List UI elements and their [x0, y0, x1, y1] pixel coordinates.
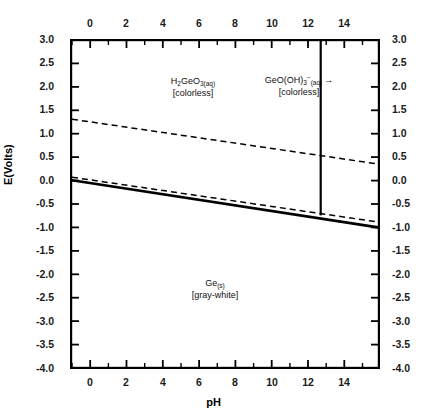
- x-tick-bottom-8: 8: [225, 377, 245, 388]
- y-tick-left-1.0: 1.0: [18, 128, 54, 139]
- x-tick-top-2: 2: [116, 18, 136, 29]
- y-tick-right--3.0: -3.0: [392, 316, 426, 327]
- y-tick-right--2.0: -2.0: [392, 269, 426, 280]
- y-tick-right-2.5: 2.5: [392, 57, 426, 68]
- y-tick-left-2.0: 2.0: [18, 81, 54, 92]
- region-label-geooh3: GeO(OH)3−(aq)→ [colorless]: [244, 74, 354, 98]
- x-tick-bottom-0: 0: [80, 377, 100, 388]
- y-tick-left-0.5: 0.5: [18, 151, 54, 162]
- y-axis-title: E(Volts): [2, 144, 14, 185]
- y-tick-left-2.5: 2.5: [18, 57, 54, 68]
- y-tick-left--1.0: -1.0: [18, 222, 54, 233]
- region-arrow-icon: →: [324, 75, 333, 85]
- x-axis-title: pH: [0, 396, 427, 408]
- y-tick-right-2.0: 2.0: [392, 81, 426, 92]
- y-tick-left-3.0: 3.0: [18, 34, 54, 45]
- x-tick-bottom-2: 2: [116, 377, 136, 388]
- x-tick-top-14: 14: [334, 18, 354, 29]
- x-tick-top-12: 12: [298, 18, 318, 29]
- y-tick-left--3.0: -3.0: [18, 316, 54, 327]
- x-tick-top-10: 10: [262, 18, 282, 29]
- y-tick-right--2.5: -2.5: [392, 292, 426, 303]
- x-tick-bottom-10: 10: [262, 377, 282, 388]
- y-tick-right--4.0: -4.0: [392, 363, 426, 374]
- x-tick-top-4: 4: [153, 18, 173, 29]
- y-tick-right-3.0: 3.0: [392, 34, 426, 45]
- y-tick-left-0.0: 0.0: [18, 175, 54, 186]
- pourbaix-diagram: E(Volts) pH: [0, 0, 427, 419]
- x-tick-top-0: 0: [80, 18, 100, 29]
- y-tick-right-0.5: 0.5: [392, 151, 426, 162]
- y-tick-left--1.5: -1.5: [18, 245, 54, 256]
- ge-formula: Ge(s): [160, 278, 270, 290]
- y-tick-right-0.0: 0.0: [392, 175, 426, 186]
- y-tick-left--3.5: -3.5: [18, 339, 54, 350]
- y-tick-left--0.5: -0.5: [18, 198, 54, 209]
- geooh3-formula: GeO(OH)3−(aq)→: [244, 74, 354, 87]
- region-label-ge-solid: Ge(s) [gray-white]: [160, 278, 270, 301]
- y-tick-left--2.5: -2.5: [18, 292, 54, 303]
- geooh3-state: [colorless]: [244, 87, 354, 98]
- y-tick-left--4.0: -4.0: [18, 363, 54, 374]
- x-tick-top-6: 6: [189, 18, 209, 29]
- ge-state: [gray-white]: [160, 290, 270, 301]
- y-tick-right-1.5: 1.5: [392, 104, 426, 115]
- y-tick-right--3.5: -3.5: [392, 339, 426, 350]
- y-tick-left--2.0: -2.0: [18, 269, 54, 280]
- y-tick-left-1.5: 1.5: [18, 104, 54, 115]
- x-tick-top-8: 8: [225, 18, 245, 29]
- x-tick-bottom-12: 12: [298, 377, 318, 388]
- y-tick-right--0.5: -0.5: [392, 198, 426, 209]
- h2geo3-state: [colorless]: [138, 88, 248, 99]
- y-tick-right--1.0: -1.0: [392, 222, 426, 233]
- region-label-h2geo3: H2GeO3(aq) [colorless]: [138, 76, 248, 99]
- x-tick-bottom-4: 4: [153, 377, 173, 388]
- y-tick-right--1.5: -1.5: [392, 245, 426, 256]
- x-tick-bottom-14: 14: [334, 377, 354, 388]
- h2geo3-formula: H2GeO3(aq): [138, 76, 248, 88]
- x-tick-bottom-6: 6: [189, 377, 209, 388]
- y-tick-right-1.0: 1.0: [392, 128, 426, 139]
